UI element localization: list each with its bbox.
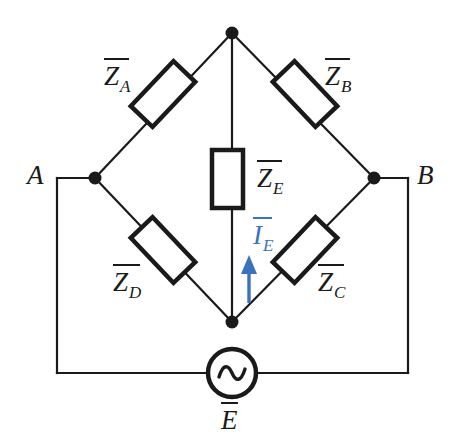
current-ie-subscript: E [263, 237, 273, 254]
impedance-zc-label: ZC [318, 262, 344, 296]
current-ie-label: IE [253, 215, 272, 249]
impedance-za-base: Z [104, 63, 119, 90]
impedance-za-subscript: A [120, 78, 130, 95]
impedance-zb-base: Z [325, 63, 340, 90]
impedance-zb-label: ZB [325, 56, 350, 90]
terminal-b-label: B [417, 162, 434, 189]
circuit-diagram: ZA ZB ZC ZD ZE IE A B E [0, 0, 461, 445]
impedance-zd-label: ZD [113, 262, 140, 296]
node-a [89, 172, 102, 185]
impedance-ze-symbol [212, 150, 243, 208]
node-bottom [226, 316, 239, 329]
impedance-ze-label: ZE [257, 158, 282, 192]
current-ie-base: I [253, 222, 262, 249]
impedance-zd-subscript: D [129, 284, 141, 301]
impedance-zd-symbol [131, 217, 195, 283]
terminal-a-text: A [27, 160, 44, 190]
ac-source-symbol [208, 349, 256, 397]
impedance-zc-base: Z [318, 269, 333, 296]
impedance-za-label: ZA [104, 56, 129, 90]
impedance-ze-base: Z [257, 165, 272, 192]
impedance-zc-subscript: C [334, 284, 345, 301]
terminal-a-label: A [27, 162, 44, 189]
impedance-ze-subscript: E [273, 180, 283, 197]
impedance-za-symbol [131, 61, 195, 127]
impedance-zb-subscript: B [341, 78, 351, 95]
node-b [368, 172, 381, 185]
current-arrow-ie [241, 255, 257, 303]
ac-source-base: E [221, 407, 238, 434]
circuit-schematic-svg [0, 0, 461, 445]
ac-source-label: E [221, 400, 238, 434]
node-top [226, 27, 239, 40]
terminal-b-text: B [417, 160, 434, 190]
impedance-zd-base: Z [113, 269, 128, 296]
